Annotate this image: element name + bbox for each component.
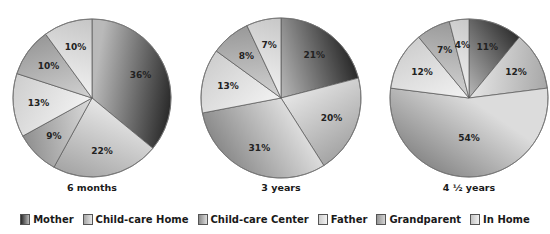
pie-charts-svg: 36%22%9%13%10%10%21%20%31%13%8%7%11%12%5… — [0, 0, 550, 200]
legend-label: Mother — [33, 214, 73, 225]
pie-caption-3-years: 3 years — [221, 182, 341, 193]
slice-value-label: 22% — [91, 146, 113, 156]
pie-4-years: 11%12%54%12%7%4% — [390, 19, 548, 177]
slice-value-label: 10% — [38, 61, 60, 71]
slice-value-label: 8% — [239, 51, 254, 61]
slice-value-label: 7% — [261, 40, 276, 50]
chart-legend: Mother Child-care Home Child-care Center… — [0, 210, 550, 228]
legend-label: Father — [331, 214, 368, 225]
slice-value-label: 21% — [304, 50, 326, 60]
legend-swatch-child-care-home — [83, 214, 93, 225]
legend-swatch-grandparent — [376, 214, 386, 225]
pie-3-years: 21%20%31%13%8%7% — [201, 18, 361, 178]
legend-item-child-care-home: Child-care Home — [83, 214, 189, 225]
legend-label: Grandparent — [389, 214, 461, 225]
pie-charts-area: 36%22%9%13%10%10%21%20%31%13%8%7%11%12%5… — [0, 0, 550, 200]
pie-6-months: 36%22%9%13%10%10% — [13, 19, 171, 177]
slice-value-label: 12% — [411, 67, 433, 77]
legend-item-child-care-center: Child-care Center — [198, 214, 309, 225]
legend-swatch-mother — [20, 214, 30, 225]
slice-value-label: 10% — [65, 42, 87, 52]
pie-caption-4-half-years: 4 ½ years — [409, 182, 529, 193]
slice-value-label: 13% — [217, 81, 239, 91]
legend-swatch-child-care-center — [198, 214, 208, 225]
legend-swatch-father — [318, 214, 328, 225]
slice-value-label: 11% — [476, 42, 498, 52]
slice-value-label: 4% — [455, 40, 470, 50]
slice-value-label: 12% — [505, 67, 527, 77]
slice-value-label: 20% — [321, 113, 343, 123]
slice-value-label: 54% — [458, 133, 480, 143]
legend-swatch-in-home — [470, 214, 480, 225]
legend-item-mother: Mother — [20, 214, 73, 225]
legend-label: In Home — [483, 214, 530, 225]
pie-caption-6-months: 6 months — [32, 182, 152, 193]
slice-value-label: 7% — [437, 45, 452, 55]
slice-value-label: 36% — [130, 70, 152, 80]
legend-item-grandparent: Grandparent — [376, 214, 461, 225]
legend-label: Child-care Center — [211, 214, 309, 225]
legend-item-father: Father — [318, 214, 368, 225]
legend-label: Child-care Home — [96, 214, 189, 225]
slice-value-label: 9% — [46, 131, 61, 141]
slice-value-label: 13% — [28, 98, 50, 108]
legend-item-in-home: In Home — [470, 214, 530, 225]
slice-value-label: 31% — [249, 143, 271, 153]
